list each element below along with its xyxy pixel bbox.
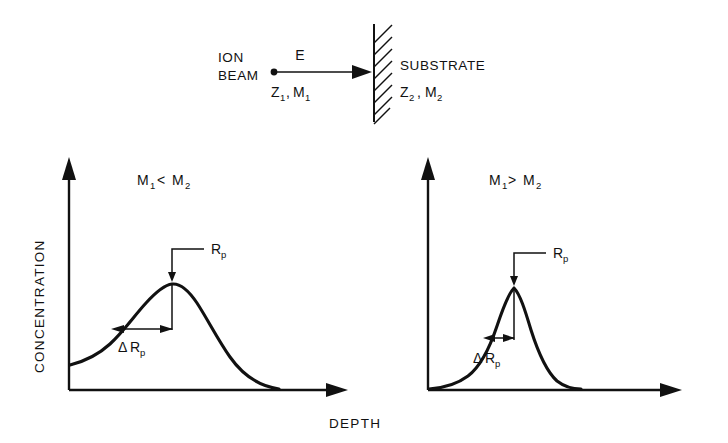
right-condition-label: M 1 > M 2: [489, 172, 541, 191]
left-delta-rp-arrowhead-left-icon: [111, 325, 124, 333]
left-y-axis-arrowhead-icon: [62, 157, 76, 180]
right-condition-operator: >: [508, 172, 516, 188]
right-rp-leader-line: [514, 253, 546, 276]
left-delta-rp-label: Δ R p: [118, 339, 145, 358]
substrate-m-subscript: 2: [437, 92, 442, 103]
left-rp-arrowhead-icon: [168, 272, 176, 282]
ion-m-subscript: 1: [305, 92, 310, 103]
ion-beam-label-line1: ION: [218, 50, 244, 65]
left-delta-symbol: Δ: [118, 339, 128, 355]
substrate-label: SUBSTRATE: [400, 58, 485, 73]
ion-species-comma: ,: [286, 84, 290, 100]
left-condition-rhs-sub: 2: [185, 180, 190, 191]
left-delta-rp-subscript: p: [140, 347, 145, 358]
right-delta-rp-symbol: R: [485, 350, 495, 366]
ion-m-symbol: M: [293, 84, 305, 100]
left-x-axis-arrowhead-icon: [326, 383, 348, 397]
right-delta-symbol: Δ: [473, 350, 483, 366]
right-rp-subscript: p: [563, 253, 568, 264]
energy-label: E: [295, 47, 305, 63]
right-condition-lhs: M: [489, 172, 501, 188]
right-condition-rhs: M: [523, 172, 535, 188]
left-distribution-curve: [70, 284, 279, 389]
ion-implantation-figure: ION BEAM E Z 1 , M 1: [0, 0, 728, 443]
left-delta-rp-symbol: R: [130, 339, 140, 355]
left-rp-symbol: R: [211, 241, 221, 257]
right-delta-rp-arrowhead-left-icon: [483, 334, 495, 342]
chart-right: M 1 > M 2 R p Δ R p: [421, 157, 682, 397]
ion-beam-label-line2: BEAM: [218, 68, 259, 83]
left-condition-lhs: M: [137, 172, 149, 188]
ion-z-subscript: 1: [280, 92, 285, 103]
ion-species-label: Z 1 , M 1: [271, 84, 310, 103]
substrate-z-subscript: 2: [409, 92, 414, 103]
right-y-axis-arrowhead-icon: [421, 157, 435, 180]
substrate-species-comma: ,: [417, 84, 421, 100]
right-rp-symbol: R: [553, 245, 563, 261]
right-condition-lhs-sub: 1: [502, 180, 507, 191]
substrate-m-symbol: M: [425, 84, 437, 100]
left-rp-label: R p: [211, 241, 226, 260]
ion-z-symbol: Z: [271, 84, 280, 100]
left-condition-operator: <: [157, 172, 165, 188]
left-condition-label: M 1 < M 2: [137, 172, 190, 191]
left-rp-leader-line: [172, 249, 204, 272]
substrate-hatching: [374, 25, 392, 124]
left-rp-subscript: p: [221, 249, 226, 260]
right-rp-label: R p: [553, 245, 568, 264]
y-axis-title: CONCENTRATION: [32, 239, 47, 373]
right-condition-rhs-sub: 2: [536, 180, 541, 191]
beam-arrowhead-icon: [352, 65, 372, 79]
beam-schematic: ION BEAM E Z 1 , M 1: [218, 24, 485, 124]
x-axis-title: DEPTH: [329, 416, 381, 431]
left-condition-lhs-sub: 1: [150, 180, 155, 191]
left-condition-rhs: M: [172, 172, 184, 188]
figure-root: ION BEAM E Z 1 , M 1: [0, 0, 728, 443]
right-delta-rp-subscript: p: [495, 358, 500, 369]
chart-left: CONCENTRATION M 1 < M 2 R p Δ R p: [32, 157, 348, 397]
substrate-z-symbol: Z: [400, 84, 409, 100]
substrate-species-label: Z 2 , M 2: [400, 84, 442, 103]
left-delta-rp-arrowhead-right-icon: [160, 325, 173, 333]
right-delta-rp-arrowhead-right-icon: [503, 334, 515, 342]
right-rp-arrowhead-icon: [510, 276, 518, 286]
right-x-axis-arrowhead-icon: [660, 383, 682, 397]
